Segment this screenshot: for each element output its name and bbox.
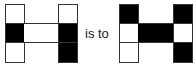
source-right-middle-cell bbox=[58, 23, 78, 43]
source-right-bottom-cell bbox=[58, 42, 78, 63]
target-left-middle-cell bbox=[119, 23, 139, 43]
target-crossbar bbox=[138, 23, 174, 43]
source-left-middle-cell bbox=[5, 23, 25, 43]
target-right-bottom-cell bbox=[173, 42, 193, 63]
target-left-top-cell bbox=[119, 4, 139, 24]
target-right-middle-cell bbox=[173, 23, 193, 43]
connector-label: is to bbox=[85, 26, 109, 41]
target-left-bottom-cell bbox=[119, 42, 139, 63]
source-right-top-cell bbox=[58, 4, 78, 24]
target-right-top-cell bbox=[173, 4, 193, 24]
source-left-bottom-cell bbox=[5, 42, 25, 63]
source-left-top-cell bbox=[5, 4, 25, 24]
source-crossbar bbox=[24, 23, 59, 43]
